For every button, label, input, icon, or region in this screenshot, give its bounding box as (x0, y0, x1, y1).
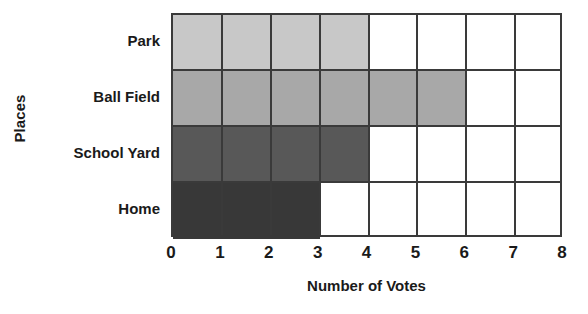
x-tick-label-2: 2 (249, 243, 289, 263)
x-axis-title: Number of Votes (171, 277, 562, 294)
y-axis-tick-labels: ParkBall FieldSchool YardHome (38, 13, 166, 237)
x-tick-label-7: 7 (493, 243, 533, 263)
x-tick-label-3: 3 (298, 243, 338, 263)
x-tick-label-1: 1 (200, 243, 240, 263)
bar-row-school-yard (173, 127, 560, 183)
y-tick-label-park: Park (127, 13, 160, 69)
bar-row-home (173, 183, 560, 239)
gridline-vertical-5 (416, 15, 418, 235)
gridline-vertical-7 (514, 15, 516, 235)
x-tick-label-4: 4 (347, 243, 387, 263)
bar-home (173, 183, 320, 239)
y-tick-label-school-yard: School Yard (74, 125, 160, 181)
gridline-vertical-6 (465, 15, 467, 235)
plot-area (171, 13, 562, 237)
y-axis-title-text: Places (11, 94, 28, 142)
y-tick-label-home: Home (118, 181, 160, 237)
x-tick-label-5: 5 (395, 243, 435, 263)
bar-row-park (173, 15, 560, 71)
x-tick-label-6: 6 (444, 243, 484, 263)
x-tick-label-8: 8 (542, 243, 582, 263)
bar-chart: Places ParkBall FieldSchool YardHome 012… (0, 0, 588, 314)
gridline-vertical-2 (270, 15, 272, 235)
y-axis-title: Places (0, 0, 38, 237)
x-axis-tick-labels: 012345678 (171, 243, 562, 269)
gridline-vertical-4 (368, 15, 370, 235)
y-tick-label-ball-field: Ball Field (93, 69, 160, 125)
grid-rows (173, 15, 560, 235)
bar-row-ball-field (173, 71, 560, 127)
x-tick-label-0: 0 (151, 243, 191, 263)
gridline-vertical-3 (319, 15, 321, 235)
gridline-vertical-1 (221, 15, 223, 235)
